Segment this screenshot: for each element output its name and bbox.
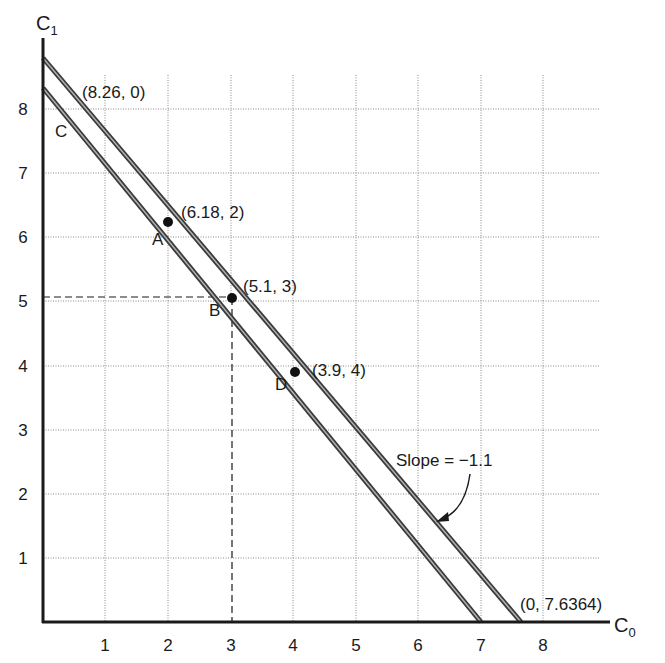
line-c-label: C — [55, 122, 67, 141]
intercept-bottom-label: (0, 7.6364) — [520, 595, 602, 614]
reference-lines — [43, 297, 232, 622]
svg-text:2: 2 — [163, 636, 172, 655]
svg-text:4: 4 — [18, 357, 27, 376]
x-axis-title: C0 — [614, 614, 636, 640]
svg-text:7: 7 — [18, 164, 27, 183]
y-tick-labels: 8 7 6 5 4 3 2 1 — [18, 100, 27, 568]
svg-text:2: 2 — [18, 485, 27, 504]
point-d-label: D — [275, 375, 287, 394]
svg-text:6: 6 — [18, 228, 27, 247]
budget-line-slope — [43, 58, 521, 622]
intercept-top-label: (8.26, 0) — [82, 83, 145, 102]
x-tick-labels: 1 2 3 4 5 6 7 8 — [100, 636, 547, 655]
point-b — [227, 293, 237, 303]
line-c — [43, 88, 481, 622]
svg-text:5: 5 — [18, 292, 27, 311]
point-a — [163, 217, 173, 227]
slope-arrow-icon — [436, 474, 470, 522]
svg-text:6: 6 — [413, 636, 422, 655]
svg-text:5: 5 — [351, 636, 360, 655]
point-a-label: A — [152, 230, 164, 249]
svg-text:1: 1 — [18, 549, 27, 568]
point-d — [290, 367, 300, 377]
point-b-label: B — [209, 301, 220, 320]
svg-text:3: 3 — [226, 636, 235, 655]
svg-text:7: 7 — [476, 636, 485, 655]
svg-text:4: 4 — [288, 636, 297, 655]
svg-text:8: 8 — [18, 100, 27, 119]
y-axis-title: C1 — [36, 12, 58, 38]
point-b-coord: (5.1, 3) — [243, 277, 297, 296]
svg-text:3: 3 — [18, 421, 27, 440]
slope-label: Slope = −1.1 — [396, 451, 492, 470]
point-d-coord: (3.9, 4) — [312, 361, 366, 380]
svg-text:8: 8 — [538, 636, 547, 655]
point-a-coord: (6.18, 2) — [181, 203, 244, 222]
svg-text:1: 1 — [100, 636, 109, 655]
chart: C1 C0 8 7 6 5 4 3 2 1 1 2 3 4 5 6 7 8 (8… — [0, 0, 665, 663]
